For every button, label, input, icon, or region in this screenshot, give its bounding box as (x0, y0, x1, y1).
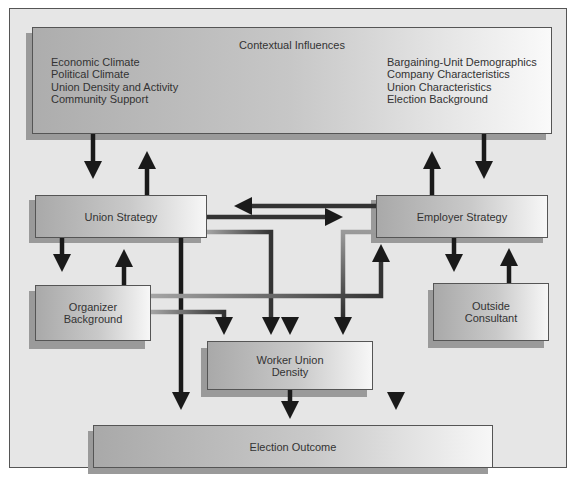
employer-strategy-box: Employer Strategy (376, 195, 548, 238)
election-outcome-box: Election Outcome (93, 425, 493, 468)
arrow-organizer-to-density (151, 312, 224, 326)
organizer-background-box: Organizer Background (35, 285, 151, 341)
worker-union-density-box: Worker Union Density (207, 341, 373, 390)
organizer-background-label-line1: Organizer (69, 301, 117, 313)
outside-consultant-label-line2: Consultant (465, 312, 518, 324)
union-strategy-label: Union Strategy (85, 211, 158, 223)
employer-strategy-label: Employer Strategy (417, 211, 507, 223)
organizer-background-label-line2: Background (64, 313, 123, 325)
worker-union-density-label-line2: Density (272, 366, 309, 378)
outside-consultant-box: Outside Consultant (433, 283, 549, 341)
arrow-organizer-to-employer (151, 253, 381, 296)
election-outcome-label: Election Outcome (250, 441, 337, 453)
union-strategy-box: Union Strategy (35, 195, 207, 238)
outside-consultant-label-line1: Outside (472, 300, 510, 312)
worker-union-density-label-line1: Worker Union (256, 354, 323, 366)
arrow-employer-to-density (343, 232, 376, 326)
